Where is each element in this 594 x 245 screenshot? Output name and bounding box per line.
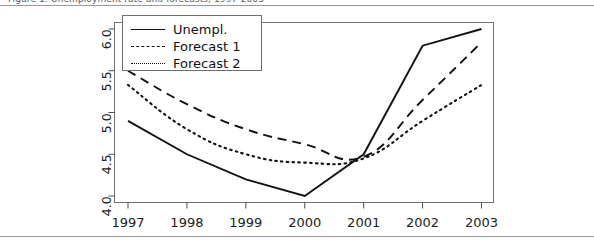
series-line-forecast-2 [128, 85, 482, 164]
legend-label-forecast-1: Forecast 1 [173, 39, 240, 54]
x-tick-label: 1999 [216, 216, 276, 229]
y-tick-label: 5.0 [100, 113, 113, 143]
legend-label-unempl: Unempl. [173, 22, 227, 37]
legend-swatch-dotted-line-icon [131, 58, 165, 70]
x-tick-label: 1997 [98, 216, 158, 229]
footer-divider [0, 236, 594, 237]
y-tick-label: 4.5 [100, 155, 113, 185]
x-tick-label: 1998 [157, 216, 217, 229]
chart-legend: Unempl. Forecast 1 Forecast 2 [122, 15, 262, 71]
x-axis-ticks [128, 203, 482, 209]
y-tick-label: 6.0 [100, 29, 113, 59]
legend-item-forecast-2: Forecast 2 [131, 55, 240, 72]
x-tick-label: 2001 [334, 216, 394, 229]
legend-label-forecast-2: Forecast 2 [173, 56, 240, 71]
x-tick-label: 2002 [393, 216, 453, 229]
unemployment-forecast-chart: 4.04.55.05.56.0 199719981999200020012002… [0, 6, 594, 236]
y-tick-label: 5.5 [100, 71, 113, 101]
x-tick-label: 2003 [452, 216, 512, 229]
plot-canvas [0, 6, 594, 236]
legend-item-unempl: Unempl. [131, 21, 227, 38]
legend-swatch-dashed-line-icon [131, 41, 165, 53]
legend-swatch-solid-line-icon [131, 24, 165, 36]
legend-item-forecast-1: Forecast 1 [131, 38, 240, 55]
x-tick-label: 2000 [275, 216, 335, 229]
